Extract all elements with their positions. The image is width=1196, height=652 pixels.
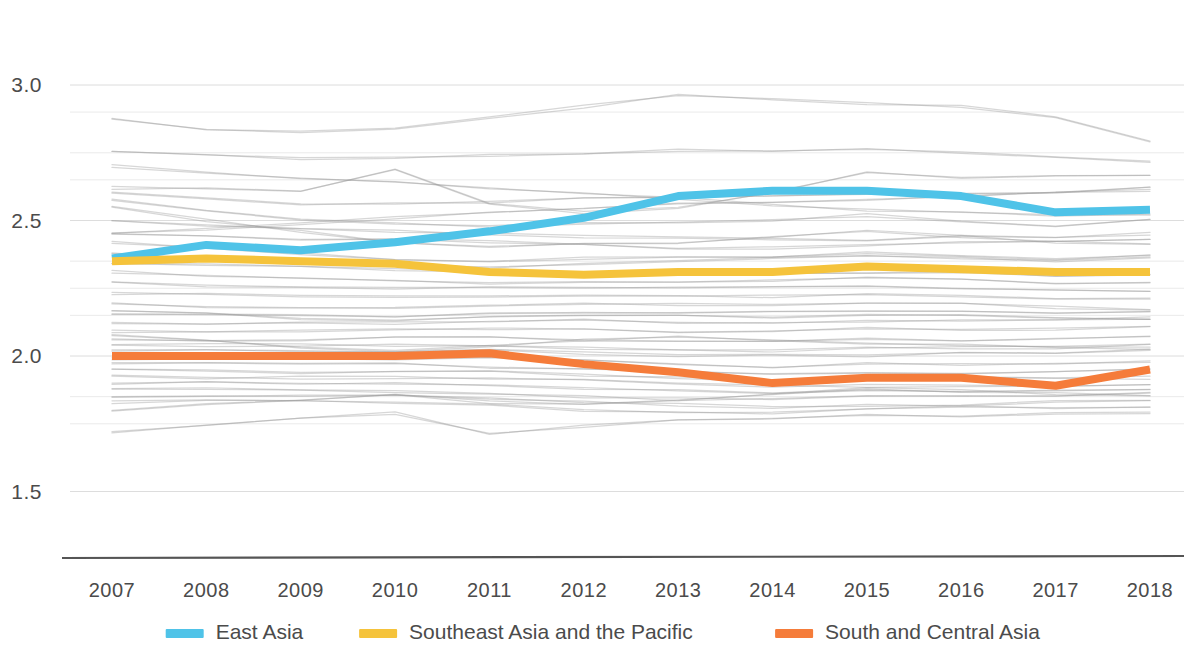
legend-item[interactable]: Southeast Asia and the Pacific: [359, 620, 693, 643]
chart-legend: East AsiaSoutheast Asia and the PacificS…: [166, 620, 1041, 643]
background-series-line: [112, 327, 1150, 333]
background-series-line: [112, 282, 1150, 292]
x-tick-label: 2013: [655, 579, 702, 601]
x-axis-tick-labels: 2007200820092010201120122013201420152016…: [89, 579, 1174, 601]
background-series-line: [112, 292, 1150, 299]
y-tick-label: 2.5: [11, 209, 42, 232]
x-tick-label: 2007: [89, 579, 136, 601]
y-axis-tick-labels: 3.02.52.01.5: [11, 73, 42, 503]
chart-container: 3.02.52.01.5 200720082009201020112012201…: [0, 0, 1196, 652]
legend-swatch: [166, 629, 204, 638]
background-series-line: [112, 149, 1150, 163]
x-tick-label: 2009: [277, 579, 324, 601]
background-series-line: [112, 94, 1150, 141]
x-axis-line: [62, 556, 1184, 558]
legend-item[interactable]: South and Central Asia: [775, 620, 1040, 643]
x-tick-label: 2016: [938, 579, 985, 601]
legend-item[interactable]: East Asia: [166, 620, 304, 643]
background-series-line: [112, 282, 1150, 291]
x-tick-label: 2015: [844, 579, 891, 601]
x-tick-label: 2017: [1032, 579, 1079, 601]
y-tick-label: 3.0: [11, 73, 42, 96]
x-tick-label: 2010: [372, 579, 419, 601]
background-series-line: [112, 319, 1150, 324]
background-series-line: [112, 96, 1150, 142]
x-tick-label: 2014: [749, 579, 796, 601]
x-tick-label: 2011: [467, 579, 512, 601]
legend-label: East Asia: [216, 620, 304, 643]
x-tick-label: 2008: [183, 579, 230, 601]
legend-label: Southeast Asia and the Pacific: [409, 620, 693, 643]
legend-swatch: [775, 629, 813, 638]
legend-swatch: [359, 629, 397, 638]
x-tick-label: 2012: [561, 579, 608, 601]
x-tick-label: 2018: [1127, 579, 1174, 601]
y-tick-label: 1.5: [11, 480, 42, 503]
y-tick-label: 2.0: [11, 344, 42, 367]
legend-label: South and Central Asia: [825, 620, 1040, 643]
line-chart: 3.02.52.01.5 200720082009201020112012201…: [0, 0, 1196, 652]
